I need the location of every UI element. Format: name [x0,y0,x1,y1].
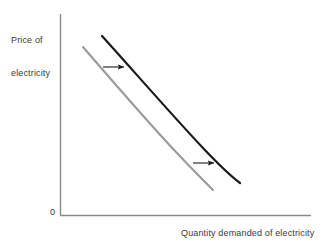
x-axis-label: Quantity demanded of electricity [181,228,314,239]
shifted-demand-curve [102,36,240,183]
demand-curve-figure: Price of electricity Quantity demanded o… [0,0,331,243]
initial-demand-curve [83,47,213,190]
y-axis-label-line-2: electricity [11,68,63,79]
y-axis-label: Price of electricity [11,13,63,101]
y-axis-label-line-1: Price of [11,35,63,46]
origin-label: 0 [50,207,55,217]
